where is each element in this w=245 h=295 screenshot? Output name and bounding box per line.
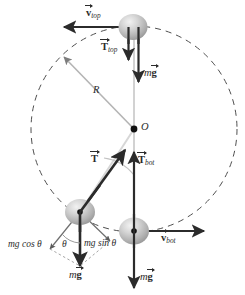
label-radius-R: R: [93, 85, 99, 96]
label-v-top: vtop: [86, 8, 101, 19]
label-t-top: Ttop: [101, 42, 117, 53]
label-center-O: O: [141, 122, 149, 133]
ball-top: [119, 14, 148, 40]
label-theta-ball: θ: [62, 240, 67, 250]
label-tension-T: T: [91, 154, 98, 165]
diagram-canvas: [0, 0, 245, 295]
label-v-bot: vbot: [161, 233, 176, 244]
component-dash-1: [50, 249, 80, 266]
label-mg-sin-theta: mg sin θ: [84, 239, 116, 249]
label-t-bot: Tbot: [138, 155, 154, 166]
label-mg-angled: mg: [69, 270, 82, 281]
center-point-O: [131, 126, 138, 133]
label-mg-bottom: mg: [140, 272, 153, 283]
physics-diagram-figure: vtop Ttop mg R O θ T Tbot vbot mg cos θ …: [0, 0, 245, 295]
label-mg-top: mg: [144, 68, 157, 79]
label-theta-center: θ: [118, 153, 123, 163]
label-mg-cos-theta: mg cos θ: [8, 240, 42, 250]
